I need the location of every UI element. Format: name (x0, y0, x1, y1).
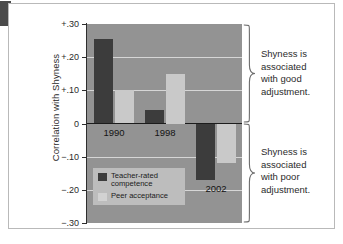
legend-item-teacher: Teacher-rated competence (98, 172, 179, 189)
y-axis-tick (82, 190, 87, 191)
x-axis-group-label-2002: 2002 (205, 183, 226, 194)
annotation-good-line2: associated (261, 61, 310, 74)
y-axis-tick (82, 157, 87, 158)
annotation-good-adjustment: Shyness is associated with good adjustme… (261, 48, 310, 98)
bar-teacher-rated-competence-1998 (145, 110, 164, 123)
y-axis-tick (82, 223, 87, 224)
legend-label-teacher: Teacher-rated competence (111, 172, 158, 189)
legend-label-peer: Peer acceptance (111, 192, 168, 201)
chart-legend: Teacher-rated competence Peer acceptance (93, 168, 185, 205)
legend-label-peer-line1: Peer acceptance (111, 191, 168, 200)
figure-frame: Correlation with Shyness Teacher-rated c… (8, 3, 335, 229)
annotation-good-line1: Shyness is (261, 48, 310, 61)
annotation-poor-line2: associated (261, 159, 310, 172)
annotation-good-line3: with good (261, 73, 310, 86)
figure-container: Correlation with Shyness Teacher-rated c… (0, 0, 343, 244)
y-axis-tick-label: −.20 (49, 185, 79, 195)
x-axis-group-label-1990: 1990 (103, 127, 124, 138)
bar-teacher-rated-competence-1990 (94, 39, 113, 124)
annotation-poor-line3: with poor (261, 171, 310, 184)
y-axis-tick-label: +.20 (49, 52, 79, 62)
plot-wrapper: Teacher-rated competence Peer acceptance… (87, 24, 242, 223)
legend-swatch-peer (98, 193, 107, 201)
bar-peer-acceptance-1990 (115, 90, 134, 123)
y-axis-tick-label: 0 (49, 119, 79, 129)
annotation-poor-adjustment: Shyness is associated with poor adjustme… (261, 146, 310, 196)
legend-label-teacher-line2: competence (111, 179, 152, 188)
bar-teacher-rated-competence-2002 (196, 124, 215, 180)
y-axis-tick-label: +.30 (49, 19, 79, 29)
annotation-good-line4: adjustment. (261, 86, 310, 99)
bar-peer-acceptance-1998 (166, 74, 185, 124)
y-axis-tick-label: +.10 (49, 85, 79, 95)
legend-swatch-teacher (98, 173, 107, 181)
y-axis-tick (82, 124, 87, 125)
annotation-poor-line4: adjustment. (261, 184, 310, 197)
y-axis-tick (82, 90, 87, 91)
x-axis-group-label-1998: 1998 (154, 127, 175, 138)
brace-bottom (243, 123, 256, 223)
legend-item-peer: Peer acceptance (98, 192, 179, 201)
y-axis-tick (82, 24, 87, 25)
bar-peer-acceptance-2002 (217, 124, 236, 164)
annotation-poor-line1: Shyness is (261, 146, 310, 159)
y-axis-tick-label: −.10 (49, 152, 79, 162)
brace-top (243, 24, 256, 123)
y-axis-tick (82, 57, 87, 58)
y-axis-tick-label: −.30 (49, 218, 79, 228)
